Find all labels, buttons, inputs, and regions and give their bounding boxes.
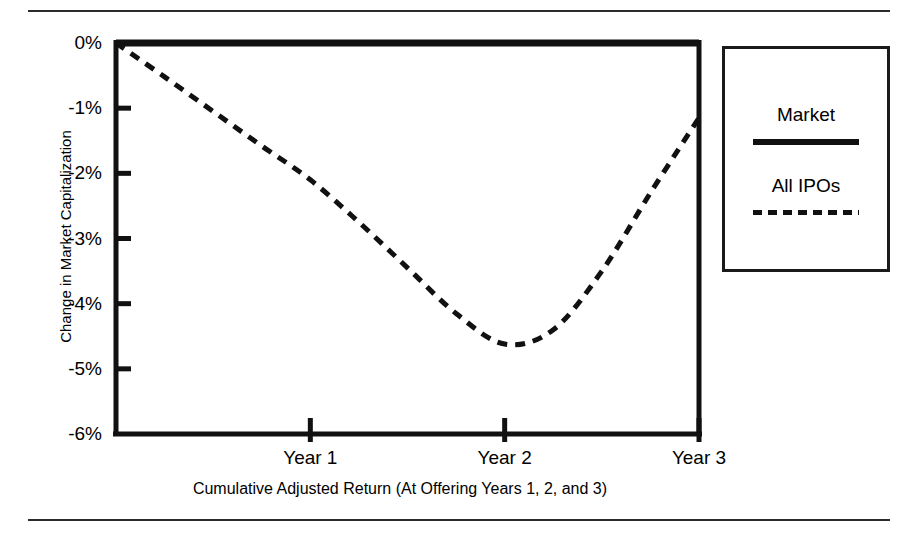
legend-label: Market	[777, 104, 835, 126]
x-axis-tick-labels: Year 1Year 2Year 3	[0, 447, 905, 477]
legend-label: All IPOs	[772, 175, 841, 197]
x-axis-tick-label: Year 1	[283, 447, 337, 469]
legend-entry: All IPOs	[725, 175, 887, 215]
legend-swatch-dashed-line	[753, 210, 859, 215]
x-axis-tick-label: Year 3	[672, 447, 726, 469]
y-axis-tick-label: -5%	[34, 359, 102, 378]
legend: MarketAll IPOs	[722, 46, 890, 272]
figure: Change in Market Capitalization 0%-1%-2%…	[0, 0, 905, 534]
y-axis-tick-label: -6%	[34, 424, 102, 443]
y-axis-tick-label: -4%	[34, 294, 102, 313]
plot-svg	[113, 40, 702, 439]
axis-lines	[113, 40, 702, 436]
plot-area	[113, 40, 702, 439]
y-axis-tick-label: 0%	[34, 33, 102, 52]
bottom-rule	[28, 519, 890, 521]
y-axis-tick-label: -3%	[34, 229, 102, 248]
x-axis-tick-label: Year 2	[478, 447, 532, 469]
y-axis-tick-label: -1%	[34, 98, 102, 117]
x-axis-ticks	[310, 418, 699, 442]
x-axis-caption: Cumulative Adjusted Return (At Offering …	[0, 480, 800, 498]
top-rule	[28, 10, 890, 12]
data-series-layer	[116, 43, 699, 345]
series-line-all-ipos	[116, 43, 699, 345]
legend-entry: Market	[725, 104, 887, 145]
legend-swatch-solid-line	[753, 139, 859, 145]
y-axis-tick-label: -2%	[34, 163, 102, 182]
